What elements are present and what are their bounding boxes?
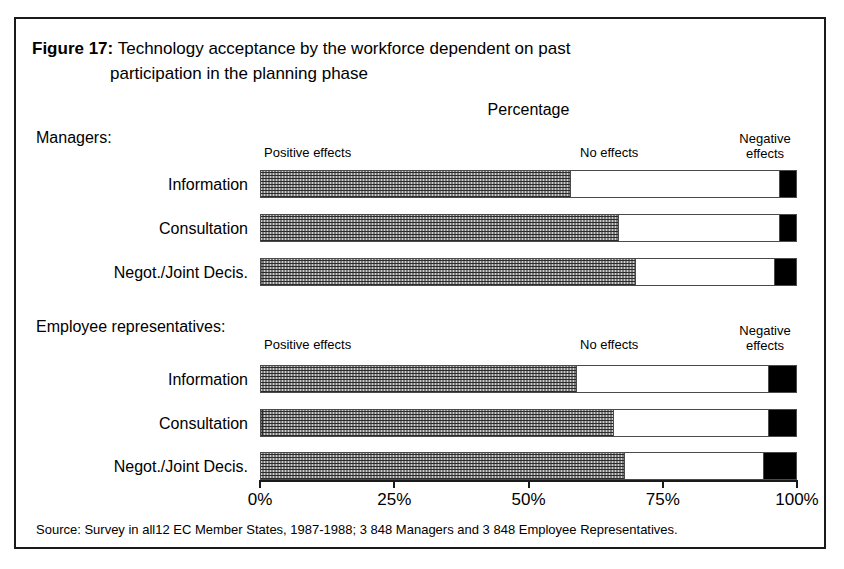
segment-positive <box>261 215 619 241</box>
row-label: Negot./Joint Decis. <box>16 458 248 476</box>
row-label: Negot./Joint Decis. <box>16 264 248 282</box>
legend-managers: Positive effects No effects Negative eff… <box>260 131 797 165</box>
group-title-managers: Managers: <box>36 129 112 147</box>
figure-number: Figure 17: <box>32 39 113 58</box>
axis-tick-label: 75% <box>623 490 703 510</box>
legend-negative-label: Negative effects <box>726 323 804 353</box>
axis-tick-mark <box>796 480 798 488</box>
segment-positive <box>261 259 636 285</box>
title-line-1: Figure 17: Technology acceptance by the … <box>32 36 732 61</box>
source-note: Source: Survey in all12 EC Member States… <box>36 522 678 537</box>
stacked-bar <box>260 258 797 286</box>
axis-tick-label: 100% <box>757 490 837 510</box>
segment-no-effects <box>571 171 780 197</box>
axis-tick-label: 25% <box>354 490 434 510</box>
bar-row-employees-information: Information <box>16 365 797 395</box>
row-label: Information <box>16 176 248 194</box>
segment-no-effects <box>577 366 770 392</box>
segment-negative <box>764 453 796 479</box>
stacked-bar <box>260 452 797 480</box>
bar-row-employees-consultation: Consultation <box>16 409 797 439</box>
bar-row-managers-information: Information <box>16 170 797 200</box>
segment-positive <box>261 366 577 392</box>
axis-tick-label: 0% <box>220 490 300 510</box>
bar-row-employees-negotiation: Negot./Joint Decis. <box>16 452 797 482</box>
segment-positive <box>261 171 571 197</box>
row-label: Information <box>16 371 248 389</box>
title-text-2: participation in the planning phase <box>32 61 732 86</box>
segment-no-effects <box>619 215 780 241</box>
legend-positive-label: Positive effects <box>264 337 351 352</box>
figure-title: Figure 17: Technology acceptance by the … <box>32 36 732 86</box>
segment-negative <box>769 410 796 436</box>
axis-tick-mark <box>528 480 530 488</box>
bar-row-managers-consultation: Consultation <box>16 214 797 244</box>
bar-row-managers-negotiation: Negot./Joint Decis. <box>16 258 797 288</box>
segment-negative <box>780 171 796 197</box>
legend-no-effects-label: No effects <box>580 145 638 160</box>
x-axis: 0%25%50%75%100% <box>260 480 797 514</box>
segment-no-effects <box>625 453 764 479</box>
segment-no-effects <box>614 410 769 436</box>
legend-negative-line-1: Negative <box>739 131 790 146</box>
figure-frame: Figure 17: Technology acceptance by the … <box>14 17 826 549</box>
row-label: Consultation <box>16 220 248 238</box>
segment-negative <box>775 259 796 285</box>
axis-tick-mark <box>662 480 664 488</box>
stacked-bar <box>260 409 797 437</box>
legend-employees: Positive effects No effects Negative eff… <box>260 323 797 357</box>
legend-negative-line-2: effects <box>746 146 784 161</box>
group-title-employees: Employee representatives: <box>36 318 225 336</box>
stacked-bar <box>260 214 797 242</box>
axis-tick-mark <box>393 480 395 488</box>
legend-no-effects-label: No effects <box>580 337 638 352</box>
legend-negative-line-1: Negative <box>739 323 790 338</box>
row-label: Consultation <box>16 415 248 433</box>
axis-caption: Percentage <box>260 101 797 119</box>
segment-negative <box>769 366 796 392</box>
title-text-1: Technology acceptance by the workforce d… <box>118 39 571 58</box>
segment-negative <box>780 215 796 241</box>
axis-tick-label: 50% <box>489 490 569 510</box>
segment-positive <box>261 410 614 436</box>
legend-negative-label: Negative effects <box>726 131 804 161</box>
segment-positive <box>261 453 625 479</box>
legend-positive-label: Positive effects <box>264 145 351 160</box>
legend-negative-line-2: effects <box>746 338 784 353</box>
stacked-bar <box>260 170 797 198</box>
segment-no-effects <box>636 259 775 285</box>
stacked-bar <box>260 365 797 393</box>
axis-tick-mark <box>259 480 261 488</box>
